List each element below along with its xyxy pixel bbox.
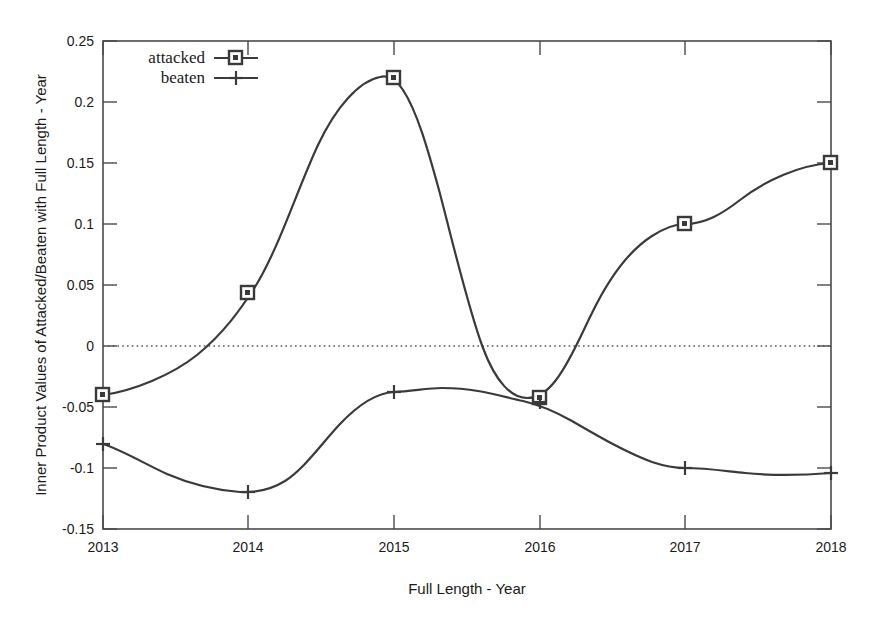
x-tick-label: 2015 [378,539,409,555]
y-tick-label: 0.1 [75,216,95,232]
chart-figure: 0.25 0.2 0.15 0.1 0.05 0 -0.05 -0.1 -0.1… [0,0,878,644]
markers-beaten [96,385,838,499]
legend-sample-beaten [214,71,258,85]
y-tickmarks [103,41,831,529]
x-tickmarks [103,41,831,529]
x-tick-label: 2013 [87,539,118,555]
series-curve-beaten [103,388,831,492]
y-tick-label: 0 [86,338,94,354]
y-tick-label: 0.2 [75,94,95,110]
y-tick-label: -0.15 [62,521,94,537]
y-axis-title: Inner Product Values of Attacked/Beaten … [32,74,49,496]
y-tick-label: -0.05 [62,399,94,415]
x-tick-label: 2014 [232,539,263,555]
legend-label-beaten: beaten [161,68,206,87]
plot-frame [103,41,831,529]
legend-label-attacked: attacked [148,48,205,67]
x-tick-label: 2017 [669,539,700,555]
markers-attacked [96,71,837,404]
y-tick-label: -0.1 [70,460,94,476]
y-tick-label: 0.25 [67,33,94,49]
chart-legend: attacked beaten [148,48,258,87]
x-tick-labels: 2013 2014 2015 2016 2017 2018 [87,539,846,555]
x-tick-label: 2018 [815,539,846,555]
chart-svg: 0.25 0.2 0.15 0.1 0.05 0 -0.05 -0.1 -0.1… [0,0,878,644]
y-tick-label: 0.05 [67,277,94,293]
series-curve-attacked [103,77,831,398]
legend-sample-attacked [214,51,258,64]
y-tick-labels: 0.25 0.2 0.15 0.1 0.05 0 -0.05 -0.1 -0.1… [62,33,94,537]
y-tick-label: 0.15 [67,155,94,171]
x-axis-title: Full Length - Year [408,580,526,597]
x-tick-label: 2016 [524,539,555,555]
